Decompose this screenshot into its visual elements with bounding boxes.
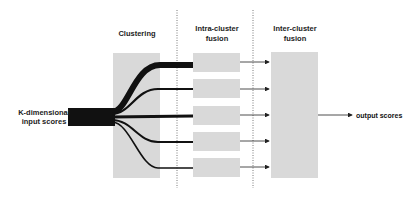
intra-box-1	[193, 53, 240, 72]
input-label-line2: input scores	[22, 117, 67, 126]
intra-box-3	[193, 106, 240, 125]
stage-title-intra-line1: Intra-cluster	[195, 24, 238, 33]
stage-title-inter-line2: fusion	[284, 34, 307, 43]
stage-title-intra-line2: fusion	[206, 34, 229, 43]
inter-box	[271, 52, 318, 178]
stage-title-inter-line1: Inter-cluster	[273, 24, 316, 33]
output-label: output scores	[356, 112, 402, 120]
intra-box-4	[193, 132, 240, 151]
flow-3	[112, 116, 193, 117]
input-scores-block	[68, 108, 115, 126]
intra-box-2	[193, 79, 240, 98]
fusion-pipeline-diagram: Clustering Intra-cluster fusion Inter-cl…	[0, 0, 415, 199]
input-label-line1: K-dimensional	[18, 108, 70, 117]
intra-box-5	[193, 158, 240, 177]
stage-title-clustering: Clustering	[118, 29, 156, 38]
intra-to-inter-arrows	[240, 62, 269, 167]
